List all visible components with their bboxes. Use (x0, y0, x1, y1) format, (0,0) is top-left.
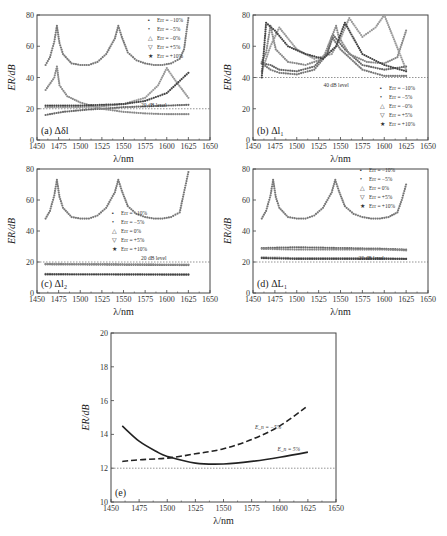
data-marker (45, 218, 47, 220)
data-marker (318, 57, 320, 59)
data-marker (313, 258, 315, 260)
data-marker (313, 249, 315, 251)
x-axis-title: λ/nm (113, 153, 134, 164)
data-marker (172, 274, 174, 276)
data-marker (272, 179, 274, 181)
legend-entry: Err = −10% (121, 210, 147, 216)
data-marker (329, 39, 331, 41)
data-marker (341, 28, 343, 30)
data-marker (265, 257, 267, 259)
data-marker (148, 217, 150, 219)
data-marker (121, 274, 123, 276)
y-tick-label: 40 (242, 227, 250, 236)
data-marker (81, 102, 83, 104)
data-marker (392, 36, 394, 38)
y-tick-label: 10 (100, 498, 108, 507)
data-marker (304, 68, 306, 70)
data-marker (120, 34, 122, 36)
data-marker (58, 78, 60, 80)
data-marker (68, 110, 70, 112)
data-marker (137, 263, 139, 265)
data-marker (331, 191, 333, 193)
data-marker (344, 205, 346, 207)
data-marker (56, 273, 58, 275)
x-tick-label: 1500 (289, 142, 305, 151)
data-marker (266, 208, 268, 210)
data-marker (80, 273, 82, 275)
data-marker (265, 24, 267, 26)
data-marker (291, 248, 293, 250)
data-marker (81, 218, 83, 220)
data-marker (58, 192, 60, 194)
data-marker (54, 74, 56, 76)
data-marker (397, 209, 399, 211)
data-marker (53, 43, 55, 45)
data-marker (267, 248, 269, 250)
data-marker (135, 106, 137, 108)
data-marker (151, 98, 153, 100)
data-marker (187, 264, 189, 266)
data-marker (119, 185, 121, 187)
data-marker (274, 46, 276, 48)
data-marker (51, 203, 53, 205)
data-marker (296, 73, 298, 75)
data-marker (185, 113, 187, 115)
data-marker (399, 205, 401, 207)
data-marker (364, 60, 366, 62)
data-marker (49, 263, 51, 265)
data-marker (58, 112, 60, 114)
data-marker (60, 200, 62, 202)
data-marker (186, 24, 188, 26)
data-marker (386, 20, 388, 22)
data-marker (113, 263, 115, 265)
data-marker (296, 218, 298, 220)
data-marker (280, 258, 282, 260)
data-marker (296, 258, 298, 260)
data-marker (183, 191, 185, 193)
data-marker (68, 96, 70, 98)
data-marker (351, 211, 353, 213)
data-marker (186, 73, 188, 75)
data-marker (180, 207, 182, 209)
legend-entry: Err = −10% (389, 85, 415, 91)
data-marker (347, 51, 349, 53)
data-marker (369, 57, 371, 59)
data-marker (390, 75, 392, 77)
data-marker (377, 249, 379, 251)
data-marker (329, 41, 331, 43)
data-marker (337, 39, 339, 41)
data-marker (405, 75, 407, 77)
data-marker (360, 67, 362, 69)
data-marker (272, 39, 274, 41)
data-marker (144, 62, 146, 64)
legend-marker-icon: ★ (112, 246, 117, 252)
data-marker (161, 218, 163, 220)
data-marker (187, 19, 189, 21)
data-marker (311, 69, 313, 71)
data-marker (388, 249, 390, 251)
series-markers (45, 72, 190, 107)
data-marker (86, 263, 88, 265)
data-marker (372, 66, 374, 68)
data-marker (46, 216, 48, 218)
data-marker (168, 104, 170, 106)
data-marker (261, 74, 263, 76)
data-marker (100, 58, 102, 60)
data-marker (354, 39, 356, 41)
data-marker (403, 70, 405, 72)
data-marker (143, 263, 145, 265)
data-marker (57, 36, 59, 38)
data-marker (117, 274, 119, 276)
data-marker (276, 257, 278, 259)
data-marker (401, 75, 403, 77)
data-marker (390, 32, 392, 34)
x-tick-label: 1575 (244, 504, 260, 513)
data-marker (109, 109, 111, 111)
data-marker (185, 35, 187, 37)
legend-entry: Err = −0% (157, 35, 181, 41)
data-marker (294, 258, 296, 260)
data-marker (369, 30, 371, 32)
data-marker (344, 258, 346, 260)
data-marker (271, 31, 273, 33)
data-marker (267, 64, 269, 66)
